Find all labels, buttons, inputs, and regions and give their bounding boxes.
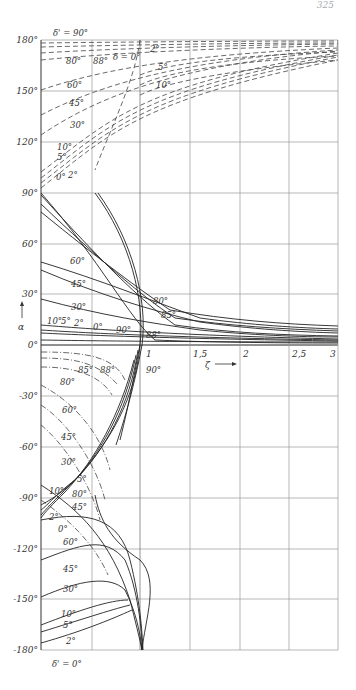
svg-text:5°: 5° bbox=[57, 152, 67, 162]
svg-text:δ' = 90°: δ' = 90° bbox=[53, 28, 88, 38]
upper-dashed-curves bbox=[41, 40, 338, 188]
svg-text:δ' = 0°: δ' = 0° bbox=[52, 659, 82, 669]
svg-text:-90°: -90° bbox=[19, 493, 38, 503]
alpha-zeta-chart: 180° 150° 120° 90° 60° 30° 0° -30° -60° … bbox=[0, 0, 356, 690]
svg-text:0°: 0° bbox=[93, 322, 103, 332]
svg-text:60°: 60° bbox=[62, 405, 77, 415]
lower-dashdot-labels: 85° 88° 80° 60° 45° 30° 90° bbox=[60, 365, 161, 467]
x-axis-ticks: 1 1,5 2 2,5 3 bbox=[146, 349, 336, 359]
svg-text:150°: 150° bbox=[16, 86, 38, 96]
svg-text:45°: 45° bbox=[62, 564, 78, 574]
svg-text:-180°: -180° bbox=[13, 645, 38, 655]
svg-text:1: 1 bbox=[146, 349, 152, 359]
svg-text:-30°: -30° bbox=[19, 391, 38, 401]
svg-text:2°: 2° bbox=[48, 512, 59, 522]
svg-text:3: 3 bbox=[330, 349, 336, 359]
svg-text:60°: 60° bbox=[67, 80, 82, 90]
svg-text:α: α bbox=[18, 322, 24, 332]
svg-text:10°: 10° bbox=[156, 80, 171, 90]
svg-text:10°: 10° bbox=[47, 316, 62, 326]
svg-text:2°: 2° bbox=[67, 170, 78, 180]
svg-text:45°: 45° bbox=[71, 502, 87, 512]
svg-text:180°: 180° bbox=[16, 35, 38, 45]
svg-text:-120°: -120° bbox=[13, 544, 38, 554]
svg-text:10°: 10° bbox=[57, 142, 72, 152]
svg-text:90°: 90° bbox=[146, 365, 161, 375]
svg-text:2,5: 2,5 bbox=[291, 349, 307, 359]
lower-solid-curves bbox=[41, 345, 150, 650]
svg-text:88°: 88° bbox=[100, 365, 115, 375]
svg-text:2°: 2° bbox=[73, 318, 84, 328]
svg-text:5°: 5° bbox=[77, 474, 87, 484]
svg-text:30°: 30° bbox=[70, 120, 85, 130]
svg-text:-150°: -150° bbox=[13, 594, 38, 604]
svg-text:60°: 60° bbox=[22, 239, 38, 249]
svg-text:88°: 88° bbox=[93, 56, 108, 66]
y-axis-ticks: 180° 150° 120° 90° 60° 30° 0° -30° -60° … bbox=[13, 35, 38, 655]
svg-text:10°: 10° bbox=[49, 486, 64, 496]
svg-text:60°: 60° bbox=[70, 256, 85, 266]
svg-text:30°: 30° bbox=[63, 584, 78, 594]
svg-text:60°: 60° bbox=[63, 537, 78, 547]
svg-text:85°: 85° bbox=[161, 310, 176, 320]
svg-text:30°: 30° bbox=[61, 457, 76, 467]
svg-text:88°: 88° bbox=[146, 330, 161, 340]
svg-text:0°: 0° bbox=[56, 172, 66, 182]
svg-text:80°: 80° bbox=[153, 296, 168, 306]
svg-text:1,5: 1,5 bbox=[193, 349, 208, 359]
svg-text:2°: 2° bbox=[149, 44, 160, 54]
svg-text:2°: 2° bbox=[65, 636, 76, 646]
svg-text:90°: 90° bbox=[22, 188, 38, 198]
svg-text:45°: 45° bbox=[70, 279, 86, 289]
lower-dashdot-curves bbox=[41, 352, 125, 575]
grid bbox=[41, 40, 338, 650]
svg-text:30°: 30° bbox=[71, 302, 86, 312]
svg-text:80°: 80° bbox=[66, 56, 81, 66]
svg-text:5°: 5° bbox=[61, 316, 71, 326]
svg-text:0°: 0° bbox=[28, 340, 38, 350]
svg-text:5°: 5° bbox=[63, 620, 73, 630]
svg-text:0°: 0° bbox=[58, 524, 68, 534]
svg-text:45°: 45° bbox=[68, 98, 84, 108]
svg-text:85°: 85° bbox=[78, 365, 93, 375]
svg-text:80°: 80° bbox=[72, 489, 87, 499]
svg-text:90°: 90° bbox=[116, 325, 131, 335]
svg-text:120°: 120° bbox=[16, 137, 38, 147]
svg-text:30°: 30° bbox=[22, 289, 38, 299]
upper-dashed-labels: 80° 88° 60° 45° 30° 10° 5° 0° 2° 2° 5° 1… bbox=[56, 44, 171, 182]
svg-text:80°: 80° bbox=[60, 377, 75, 387]
solid-middle-curves bbox=[41, 193, 338, 445]
svg-text:-60°: -60° bbox=[19, 442, 38, 452]
svg-text:ζ: ζ bbox=[205, 360, 211, 370]
svg-text:45°: 45° bbox=[60, 432, 76, 442]
svg-text:2: 2 bbox=[242, 349, 249, 359]
svg-text:10°: 10° bbox=[61, 609, 76, 619]
svg-text:5°: 5° bbox=[158, 62, 168, 72]
